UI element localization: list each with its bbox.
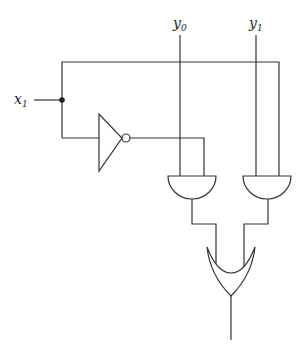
or-gate [207,247,255,296]
input-label-x1: x1 [14,91,28,109]
and-gate-2 [243,176,291,199]
input-label-y1: y1 [248,15,263,33]
junction-dot [59,97,65,103]
and-gate-1 [168,176,216,199]
logic-circuit-diagram: x1 y0 y1 [0,0,308,361]
wire-x1 [34,62,279,176]
wire-not-output [130,138,204,176]
not-gate [99,114,130,171]
wire-and2-output [244,199,268,268]
input-label-y0: y0 [172,15,187,33]
